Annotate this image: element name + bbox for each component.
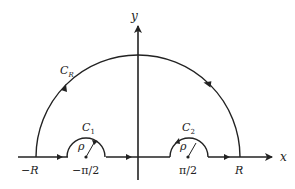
pole-left-dot	[84, 155, 87, 158]
radius-label-left: ρ	[77, 140, 85, 153]
tick-label-neg-pi-half: −π/2	[72, 164, 99, 177]
contour-diagram: y x CR C1 ρ C2 ρ −R −π/2 π/2 R	[0, 0, 295, 189]
tick-label-neg-R: −R	[21, 164, 39, 177]
x-axis-label: x	[280, 150, 287, 164]
axis-arrow-2-icon	[126, 154, 132, 160]
tick-label-pi-half: π/2	[179, 164, 197, 177]
big-arc-arrow-right-icon	[204, 81, 213, 88]
radius-label-right: ρ	[179, 140, 187, 153]
tick-label-R: R	[234, 164, 243, 177]
pole-right-dot	[186, 155, 189, 158]
axis-arrow-1-icon	[57, 154, 63, 160]
big-arc-label: CR	[60, 64, 74, 79]
indent-c2-label: C2	[182, 121, 195, 136]
indent-c1-label: C1	[82, 121, 95, 136]
y-axis-label: y	[130, 9, 138, 23]
axis-arrow-3-icon	[224, 154, 230, 160]
big-arc-arrow-left-icon	[61, 84, 67, 92]
